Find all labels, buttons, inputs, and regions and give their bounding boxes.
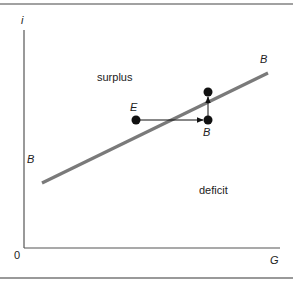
curve-label-right: B — [260, 54, 267, 65]
point-b-off-curve — [204, 116, 213, 125]
x-axis-label: G — [270, 255, 279, 266]
bb-diagram: i G 0 B B E B surplus deficit — [0, 0, 293, 281]
curve-label-left: B — [27, 154, 34, 165]
point-b-label: B — [203, 127, 210, 138]
bb-curve — [42, 73, 268, 183]
point-e — [132, 116, 141, 125]
origin-label: 0 — [14, 250, 20, 261]
point-e-label: E — [130, 102, 137, 113]
deficit-label: deficit — [199, 185, 228, 196]
surplus-label: surplus — [97, 72, 132, 83]
y-axis-label: i — [21, 15, 23, 26]
point-on-curve — [204, 88, 213, 97]
